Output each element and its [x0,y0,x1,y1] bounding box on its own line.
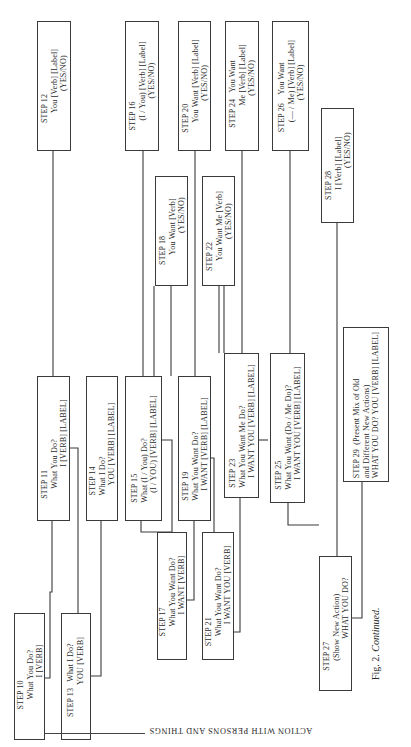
step-16-line-2: (YES/NO) [147,41,157,130]
step-25-line-1: What You Want (Do / Me Do)? [283,366,293,489]
step-26-box: STEP 26 You Want (— / Me) [Verb] [Label]… [272,21,309,151]
step-23-box: STEP 23 What You Want Me Do? I WANT YOU … [224,353,259,498]
step-11-line-2: I [VERB] [LABEL] [58,399,68,499]
step-10-box: STEP 10 What You Do? I [VERB] [14,613,45,740]
step-14-box: STEP 14 What I Do? YOU [VERB] [LABEL] [86,376,118,521]
step-21-line-2: I WANT YOU [VERB] [223,546,233,647]
step-20-label: STEP 20 [180,39,190,133]
step-23-line-1: What You Want Me Do? [237,364,247,487]
step-20-line-2: (YES/NO) [199,39,209,133]
step-12-label: STEP 12 [40,49,50,123]
step-27-label: STEP 27 [321,577,331,671]
step-12-line-2: (YES/NO) [59,49,69,123]
step-13-label-text: STEP 13 [66,687,75,716]
step-10-line-1: What You Do? [25,644,35,709]
step-21-box: STEP 21 What You Want Do? I WANT YOU [VE… [202,532,234,660]
step-17-line-2: I WANT [VERB] [177,556,187,637]
step-20-box: STEP 20 You Want [Verb] [Label] (YES/NO) [178,21,211,151]
step-27-line-1: (Show New Action) [331,577,341,671]
step-24-line-1: You Want [228,60,237,92]
step-18-label: STEP 18 [157,197,167,265]
step-14-label: STEP 14 [88,402,98,495]
step-24-line-2: Me [Verb] [Label] [237,44,247,128]
step-29-line-2: and Different New Actions) [361,331,371,477]
step-23-label: STEP 23 [227,364,237,487]
step-28-line-1: I [Verb] [Label] [333,132,343,200]
step-15-line-2: (I / YOU) [VERB] [LABEL] [148,395,158,503]
step-28-line-2: (YES/NO) [342,132,352,200]
step-26-label: STEP 26 You Want [276,40,286,132]
step-18-box: STEP 18 You Want [Verb] (YES/NO) [155,176,188,286]
step-18-line-1: You Want [Verb] [167,197,177,265]
step-20-line-1: You Want [Verb] [Label] [190,39,200,133]
step-22-box: STEP 22 You Want Me [Verb] (YES/NO) [202,176,235,286]
step-28-box: STEP 28 I [Verb] [Label] (YES/NO) [321,108,354,223]
step-27-line-2: WHAT YOU DO? [340,577,350,671]
step-29-label-text: STEP 29 [352,449,361,478]
step-16-line-1: (I / You) [Verb] [Label] [137,41,147,130]
step-29-label: STEP 29 (Present Mix of Old [352,331,362,477]
step-24-box: STEP 24 You Want Me [Verb] [Label] (YES/… [225,21,259,151]
step-29-line-3: WHAT YOU DO? YOU [VERB] [LABEL] [371,331,381,477]
step-14-line-2: YOU [VERB] [LABEL] [107,402,117,495]
step-19-label: STEP 19 [180,397,190,500]
step-25-label: STEP 25 [273,366,283,489]
figure-caption-prefix: Fig. 2. [370,654,381,680]
step-15-label: STEP 15 [129,395,139,503]
step-11-line-1: What You Do? [49,399,59,499]
step-19-line-2: I WANT [VERB] [LABEL] [199,397,209,500]
step-10-line-2: I [VERB] [34,644,44,709]
step-13-line-1: What I Do? [66,643,75,681]
step-26-label-text: STEP 26 [276,103,285,132]
step-13-box: STEP 13 What I Do? YOU [VERB] [61,613,91,740]
step-18-line-2: (YES/NO) [176,197,186,265]
figure-caption-suffix: Continued. [370,607,381,651]
step-29-box: STEP 29 (Present Mix of Old and Differen… [343,327,389,482]
step-22-line-2: (YES/NO) [223,191,233,271]
step-13-line-2: YOU [VERB] [76,636,86,716]
step-29-line-1: (Present Mix of Old [352,378,361,444]
step-28-label: STEP 28 [323,132,333,200]
step-24-label-text: STEP 24 [228,99,237,128]
step-16-label: STEP 16 [128,41,138,130]
step-22-line-1: You Want Me [Verb] [214,191,224,271]
step-27-box: STEP 27 (Show New Action) WHAT YOU DO? [319,556,352,691]
caption-rule [45,733,145,734]
step-12-box: STEP 12 You [Verb] [Label] (YES/NO) [37,21,71,151]
step-25-line-2: I WANT YOU [VERB] [LABEL] [292,366,302,489]
step-12-line-1: You [Verb] [Label] [49,49,59,123]
step-21-label: STEP 21 [204,546,214,647]
step-17-label: STEP 17 [158,556,168,637]
step-11-label: STEP 11 [39,399,49,499]
step-17-box: STEP 17 What You Want Do? I WANT [VERB] [157,532,187,660]
step-10-label: STEP 10 [15,644,25,709]
step-22-label: STEP 22 [204,191,214,271]
step-14-line-1: What I Do? [97,402,107,495]
step-26-line-2: (— / Me) [Verb] [Label] [286,40,296,132]
step-26-line-3: (YES/NO) [295,40,305,132]
step-11-box: STEP 11 What You Do? I [VERB] [LABEL] [37,376,70,521]
step-23-line-2: I WANT YOU [VERB] [LABEL] [246,364,256,487]
step-15-line-1: What (I / You) Do? [139,395,149,503]
step-16-box: STEP 16 (I / You) [Verb] [Label] (YES/NO… [125,21,159,151]
step-25-box: STEP 25 What You Want (Do / Me Do)? I WA… [270,353,305,503]
figure-caption: Fig. 2. Continued. [370,607,381,680]
step-17-line-1: What You Want Do? [167,556,177,637]
side-caption: ACTION WITH PERSONS AND THINGS [45,724,375,744]
step-15-box: STEP 15 What (I / You) Do? (I / YOU) [VE… [125,376,162,521]
step-19-line-1: What You Want Do? [190,397,200,500]
step-21-line-1: What You Want Do? [213,546,223,647]
side-caption-text: ACTION WITH PERSONS AND THINGS [149,726,312,735]
step-24-line-3: (YES/NO) [247,44,257,128]
step-13-label: STEP 13 What I Do? [66,636,76,716]
step-24-label: STEP 24 You Want [228,44,238,128]
step-26-line-1: You Want [276,62,285,94]
step-19-box: STEP 19 What You Want Do? I WANT [VERB] … [178,376,211,521]
